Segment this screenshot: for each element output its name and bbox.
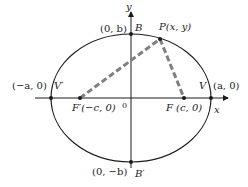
co-vertex-b-label: B — [134, 22, 142, 33]
vertex-v-dot — [209, 96, 213, 100]
focal-segment-left — [80, 39, 160, 98]
vertex-v-prime-dot — [49, 96, 53, 100]
y-axis-label: y — [125, 1, 132, 12]
point-p-dot — [158, 37, 162, 41]
origin-label: 0 — [122, 101, 127, 110]
point-p-label: P(x, y) — [158, 21, 191, 32]
ellipse-diagram: y x 0 (0, b) B P(x, y) (−a, 0) V′ V (a, … — [0, 0, 248, 187]
co-vertex-b-prime-coord: (0, −b) — [92, 166, 127, 177]
co-vertex-b-prime-label: B′ — [134, 168, 145, 179]
focus-f-prime-dot — [78, 96, 82, 100]
vertex-v-label: V — [199, 80, 208, 91]
co-vertex-b-coord: (0, b) — [100, 23, 127, 34]
focus-f-dot — [182, 96, 186, 100]
vertex-v-prime-coord: (−a, 0) — [12, 80, 47, 91]
focus-f-label: F (c, 0) — [165, 102, 202, 113]
co-vertex-b-dot — [129, 32, 133, 36]
co-vertex-b-prime-dot — [129, 160, 133, 164]
vertex-v-prime-label: V′ — [54, 80, 64, 91]
focus-f-prime-label: F′(−c, 0) — [71, 102, 116, 113]
vertex-v-coord: (a, 0) — [213, 80, 240, 91]
x-axis-label: x — [214, 104, 220, 115]
